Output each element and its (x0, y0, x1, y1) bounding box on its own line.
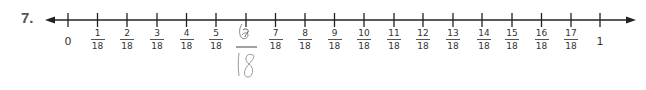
label-16-18: 1618 (530, 28, 554, 51)
label-8-18: 818 (293, 28, 317, 51)
label-zero: 0 (60, 35, 76, 48)
label-11-18: 1118 (382, 28, 406, 51)
label-2-18: 218 (115, 28, 139, 51)
handwritten-answer-6-18 (233, 22, 263, 88)
label-13-18: 1318 (441, 28, 465, 51)
label-one: 1 (592, 35, 608, 48)
label-9-18: 918 (323, 28, 347, 51)
label-10-18: 1018 (352, 28, 376, 51)
label-15-18: 1518 (500, 28, 524, 51)
label-3-18: 318 (145, 28, 169, 51)
label-14-18: 1418 (472, 28, 496, 51)
label-5-18: 518 (204, 28, 228, 51)
label-7-18: 718 (264, 28, 288, 51)
right-arrow-icon (626, 17, 636, 24)
label-12-18: 1218 (411, 28, 435, 51)
number-line (0, 0, 646, 30)
label-17-18: 1718 (559, 28, 583, 51)
label-4-18: 418 (175, 28, 199, 51)
label-1-18: 118 (86, 28, 110, 51)
left-arrow-icon (45, 17, 55, 24)
